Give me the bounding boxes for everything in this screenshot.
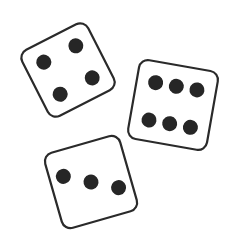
dice-svg — [0, 0, 234, 242]
dice-illustration — [0, 0, 234, 242]
die-face — [127, 59, 220, 152]
die-three — [43, 134, 139, 230]
die-face — [18, 20, 118, 120]
die-four — [18, 20, 118, 120]
die-six — [127, 59, 220, 152]
